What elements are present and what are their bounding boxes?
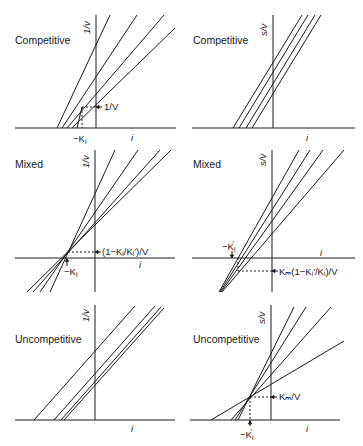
intercept-label-x: −Ki bbox=[73, 133, 87, 145]
plot-line bbox=[246, 15, 315, 128]
plot-line bbox=[40, 150, 138, 292]
y-axis-label: s/v bbox=[256, 311, 267, 324]
y-axis-label: 1/v bbox=[81, 20, 92, 34]
plot-line bbox=[61, 307, 161, 420]
plot-line bbox=[34, 306, 135, 420]
x-axis-label: i bbox=[139, 259, 142, 270]
intercept-label-y: 1/V bbox=[104, 101, 119, 112]
intercept-label-x: −Ki′ bbox=[240, 428, 254, 441]
y-axis-label: 1/v bbox=[80, 154, 91, 168]
plot-line bbox=[62, 15, 137, 128]
y-axis-label: 1/v bbox=[80, 308, 91, 322]
x-axis-label: i bbox=[306, 423, 309, 434]
y-axis-label: s/v bbox=[258, 23, 269, 36]
plot-line bbox=[77, 107, 82, 128]
intercept-label-y: Kₘ(1−Kᵢ′/Kᵢ)/V bbox=[279, 266, 338, 277]
panel-uncompetitive-1v bbox=[15, 305, 175, 420]
plot-line bbox=[54, 306, 155, 420]
x-axis-label: i bbox=[131, 132, 134, 143]
plot-line bbox=[50, 150, 115, 292]
panel-title: Uncompetitive bbox=[193, 333, 260, 345]
intercept-label-x: −Ki bbox=[64, 266, 78, 278]
y-axis-label: s/v bbox=[257, 153, 268, 166]
panel-competitive-sv bbox=[192, 15, 355, 128]
arrow-head bbox=[249, 421, 252, 424]
panel-mixed-1v bbox=[15, 150, 175, 292]
plot-line bbox=[27, 150, 171, 292]
inhibition-plots-figure: Competitive 1/v i 1/V −Ki Competitive s/… bbox=[0, 0, 363, 446]
panel-uncompetitive-sv bbox=[190, 305, 344, 426]
panel-title: Mixed bbox=[193, 158, 221, 170]
intercept-label-y: Kₘ/V bbox=[279, 391, 301, 402]
panel-title: Competitive bbox=[193, 34, 249, 46]
plot-line bbox=[33, 150, 160, 292]
plot-line bbox=[64, 308, 164, 420]
arrow-head bbox=[66, 259, 69, 262]
x-axis-label: i bbox=[320, 247, 323, 258]
intercept-label-x: −Ki′ bbox=[222, 240, 236, 253]
plot-line bbox=[72, 28, 175, 128]
panel-title: Competitive bbox=[15, 34, 71, 46]
panel-competitive-1v bbox=[15, 15, 176, 128]
panel-title: Uncompetitive bbox=[15, 333, 82, 345]
x-axis-label: i bbox=[131, 423, 134, 434]
x-axis-label: i bbox=[306, 132, 309, 143]
panel-title: Mixed bbox=[15, 158, 43, 170]
intercept-label-y: (1−Kᵢ/Kᵢ′)/V bbox=[102, 246, 149, 257]
